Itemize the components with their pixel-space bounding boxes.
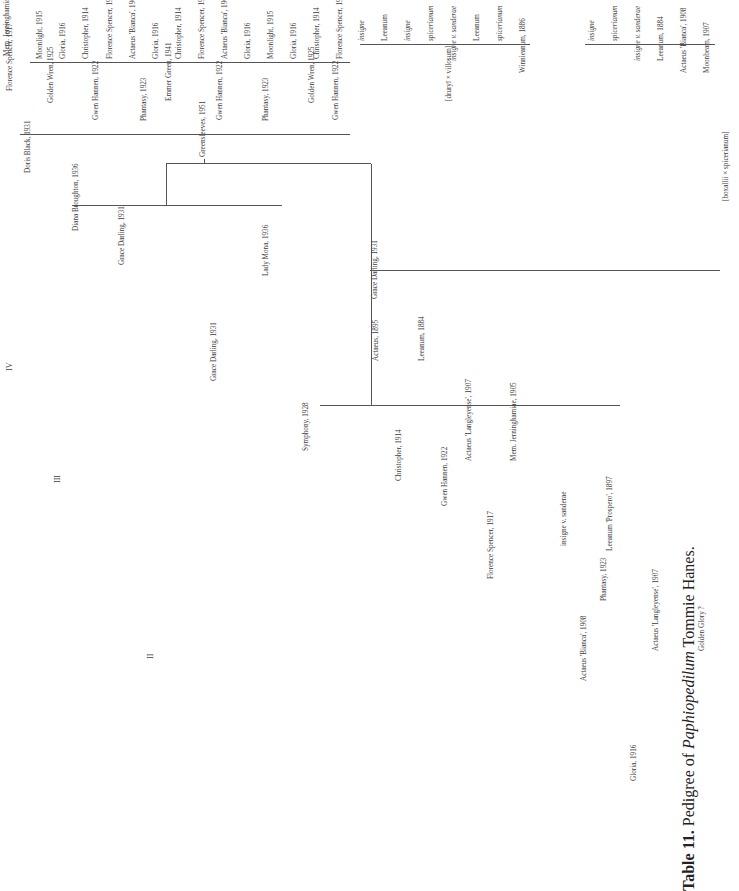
- gen6-node: Christopher, 1914: [82, 7, 90, 59]
- caption-cultivar: Tommie Hanes.: [680, 546, 697, 647]
- gen5-node: insigne v. sanderae: [560, 492, 568, 546]
- connector: [370, 270, 720, 271]
- pedigree-page: Table 11. Pedigree of Paphiopedilum Tomm…: [0, 0, 739, 891]
- gen6-node: Actaeus 'Bianca', 1908: [221, 0, 229, 59]
- gen6-node: Christopher, 1914: [175, 7, 183, 59]
- generation-label-iii: III: [53, 475, 62, 483]
- gen6-node: insigne v. sanderae: [634, 6, 642, 61]
- gen6-node: spicerianum: [427, 5, 435, 41]
- gen3-node: Diana Broughton, 1936: [72, 163, 80, 231]
- generation-label-ii: II: [146, 654, 155, 659]
- connector: [360, 44, 530, 45]
- gen4-node: Grace Darling, 1931: [210, 322, 218, 381]
- root-node: Greensleeves, 1951: [199, 101, 207, 157]
- gen3-node: Gwen Hannen, 1922: [441, 447, 449, 506]
- footnote-bracket: [druryī × villosum]: [445, 46, 453, 101]
- gen5-node: Leeanum, 1884: [418, 316, 426, 361]
- gen6-node: Leeanum, 1884: [657, 16, 665, 61]
- gen6-node: Gloria, 1916: [244, 23, 252, 59]
- gen6-node: Actaeus 'Bianca', 1908: [680, 8, 688, 73]
- gen6-node: insigne: [404, 20, 412, 41]
- connector: [20, 134, 350, 135]
- connector: [371, 164, 372, 406]
- gen4-node: Symphony, 1928: [302, 402, 310, 451]
- gen6-node: Actaeus 'Bianca', 1908: [129, 0, 137, 59]
- gen5-node: Actaeus 'Langleyense', 1907: [652, 569, 660, 651]
- connector: [585, 44, 715, 45]
- gen6-node: Moonlight, 1915: [267, 11, 275, 59]
- gen6-node: Mem. Jerninghamiae, 1905: [3, 0, 11, 56]
- gen6-node: Leeanum: [381, 14, 389, 41]
- gen5-node: Golden Glory ?: [698, 606, 706, 651]
- gen5-node: Gwen Hannen, 1922: [216, 61, 224, 120]
- connector: [204, 159, 205, 164]
- gen6-node: Gloria, 1916: [152, 23, 160, 59]
- connector: [72, 205, 282, 206]
- gen4-node: Grace Darling, 1931: [118, 206, 126, 265]
- caption-genus: Paphiopedilum: [680, 651, 697, 749]
- gen6-node: Gloria, 1916: [59, 23, 67, 59]
- gen5-node: Phantasy, 1923: [262, 78, 270, 121]
- connector: [166, 164, 167, 206]
- gen5-node: Actaeus 'Langleyense', 1907: [465, 379, 473, 461]
- gen3-node: Lady Mona, 1936: [262, 225, 270, 276]
- gen5-node: Leeanum 'Prospero', 1897: [606, 476, 614, 551]
- connector: [166, 163, 371, 164]
- gen6-node: Leeanum: [473, 14, 481, 41]
- gen6-node: insigne: [358, 20, 366, 41]
- generation-label-iv: IV: [5, 363, 14, 371]
- gen4-node: Doris Black, 1931: [24, 120, 32, 173]
- connector: [30, 62, 350, 63]
- caption-prefix: Pedigree of: [680, 753, 697, 826]
- gen6-node: Gloria, 1916: [290, 23, 298, 59]
- gen5-node: Mem. Jerninghamiae, 1905: [510, 382, 518, 461]
- caption-label: Table 11.: [680, 830, 697, 891]
- gen6-node: Winnieanum, 1886: [519, 18, 527, 73]
- gen6-node: Christopher, 1914: [313, 7, 321, 59]
- gen5-node: Actaeus, 1895: [372, 320, 380, 361]
- gen4-node: Florence Spencer, 1917: [487, 511, 495, 579]
- gen4-node: Actaeus 'Bianca', 1908: [580, 616, 588, 681]
- gen6-node: Moonlight, 1915: [36, 11, 44, 59]
- gen6-node: Florence Spencer, 1917: [336, 0, 344, 59]
- gen6-node: Florence Spencer, 1917: [106, 0, 114, 59]
- gen5-node: Golden Wren, 1925: [47, 47, 55, 103]
- gen5-node: Gwen Hannen, 1922: [92, 61, 100, 120]
- gen4-node: Gloria, 1916: [630, 745, 638, 781]
- gen2-node: Emmer Green, 1941: [165, 43, 173, 101]
- gen6-node: Florence Spencer, 1917: [198, 0, 206, 59]
- gen3-node: Phantasy, 1923: [600, 558, 608, 601]
- gen4-node: Christopher, 1914: [395, 429, 403, 481]
- gen6-node: insigne: [588, 20, 596, 41]
- footnote-bracket: [boxallii × spicerianum]: [722, 131, 730, 201]
- gen5-node: Gwen Hannen, 1922: [332, 61, 340, 120]
- gen6-node: spicerianum: [496, 5, 504, 41]
- gen6-node: Moonbeam, 1907: [703, 22, 711, 73]
- table-caption: Table 11. Pedigree of Paphiopedilum Tomm…: [680, 546, 698, 891]
- gen5-node: Phantasy, 1923: [140, 78, 148, 121]
- gen6-node: spicerianum: [611, 5, 619, 41]
